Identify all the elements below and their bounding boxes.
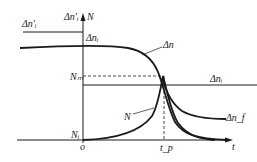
delta-n-leader [142, 47, 162, 55]
t-p-label: t_p [160, 143, 173, 153]
n-leader [133, 108, 154, 114]
delta-n-i-axis-label: Δnᵢ [86, 33, 98, 43]
y-axis-top-label: Δn'ᵢ [64, 12, 79, 22]
x-axis-label: t [232, 142, 235, 152]
delta-n-curve [20, 46, 228, 140]
origin-label: o [80, 142, 85, 152]
delta-n-i-prime-label: Δn'ᵢ [22, 19, 37, 29]
n-m-label: Nₘ [70, 72, 83, 82]
n-i-label: Nᵢ [71, 130, 79, 140]
y-axis-arrow-icon [81, 13, 86, 21]
delta-n-f-label: Δn_f [226, 113, 245, 123]
delta-n-i-right-label: Δnᵢ [210, 74, 222, 84]
n-curve-label: N [124, 112, 131, 122]
delta-n-label: Δn [163, 40, 174, 50]
n-curve [83, 76, 215, 140]
y-axis-label: N [87, 12, 94, 22]
